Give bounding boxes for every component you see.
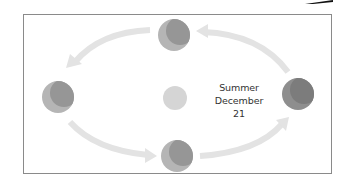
arrow-bottom-right — [200, 124, 282, 156]
arrow-top-right — [203, 32, 288, 72]
arrow-bottom-left-head — [145, 148, 157, 163]
sun-icon — [163, 86, 187, 110]
arrow-top-left — [75, 30, 150, 62]
season-name: Summer — [208, 81, 270, 94]
arrow-bottom-left — [70, 122, 148, 155]
earth-right-icon — [282, 76, 318, 110]
orbit-diagram — [0, 0, 350, 185]
season-date: December 21 — [208, 94, 270, 120]
earth-bottom-icon — [161, 138, 197, 172]
earth-left-icon — [42, 79, 78, 113]
bottom-margin — [0, 177, 350, 185]
earth-top-icon — [158, 17, 194, 51]
diagram-canvas: Summer December 21 — [0, 0, 350, 185]
season-label: Summer December 21 — [208, 81, 270, 120]
arrow-top-right-head — [196, 24, 208, 38]
